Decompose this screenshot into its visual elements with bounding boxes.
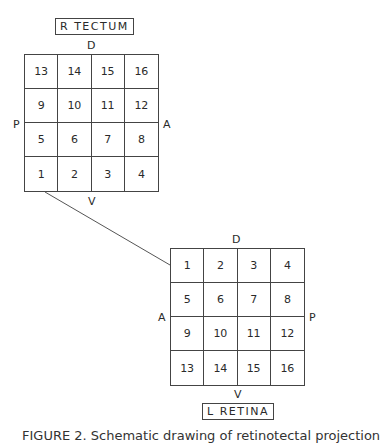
figure-caption: FIGURE 2. Schematic drawing of retinotec… xyxy=(22,428,380,443)
